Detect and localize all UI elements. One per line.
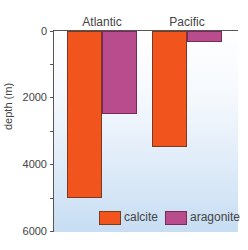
legend-swatch-calcite [99,211,121,225]
y-tick [50,97,54,98]
category-label-atlantic: Atlantic [67,15,137,29]
y-minor-tick [50,64,54,65]
y-tick-label: 4000 [23,158,47,170]
x-axis-line [53,30,238,31]
legend-swatch-aragonite [165,211,187,225]
y-tick-label: 6000 [23,225,47,237]
legend-label-calcite: calcite [124,210,158,224]
y-tick [50,164,54,165]
y-tick [50,231,54,232]
y-tick-label: 0 [41,25,47,37]
y-minor-tick [50,198,54,199]
bar-pacific-aragonite [187,31,222,42]
y-axis-label: depth (m) [2,83,14,130]
y-minor-tick [50,131,54,132]
legend-label-aragonite: aragonite [190,210,240,224]
category-label-pacific: Pacific [152,15,222,29]
bar-atlantic-calcite [67,31,102,198]
bar-pacific-calcite [152,31,187,147]
bar-atlantic-aragonite [102,31,137,114]
y-tick-label: 2000 [23,91,47,103]
y-tick [50,31,54,32]
